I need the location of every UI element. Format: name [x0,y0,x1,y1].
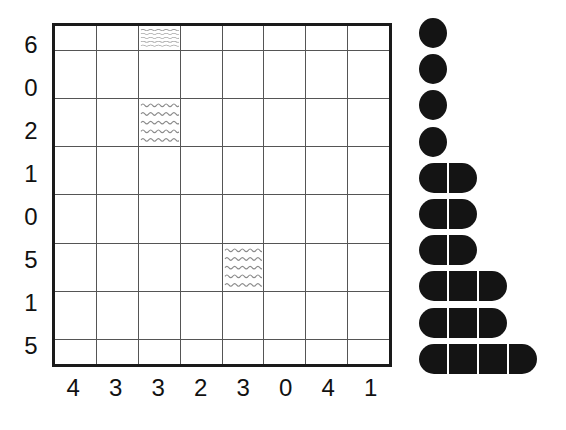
grid-cell[interactable] [306,26,348,50]
column-label-axis: 43323041 [52,371,392,405]
grid-cell[interactable] [55,98,97,146]
grid-cell[interactable] [180,195,222,243]
grid-cell[interactable] [306,195,348,243]
grid-cell[interactable] [347,292,389,340]
column-label-2: 3 [137,371,180,405]
segment-row-1 [419,54,449,84]
wave-pattern-icon [224,246,263,289]
grid-cell[interactable] [347,147,389,195]
grid-cell[interactable] [306,292,348,340]
grid-row [55,243,389,291]
grid-cell[interactable] [55,50,97,98]
grid-row [55,98,389,146]
column-label-4: 3 [222,371,265,405]
grid-cell[interactable] [139,195,181,243]
grid-cell[interactable] [347,26,389,50]
grid-cell[interactable] [264,292,306,340]
grid-cell[interactable] [55,147,97,195]
grid-cell[interactable] [97,340,139,364]
segment-circle [419,90,447,120]
grid-cell[interactable] [55,243,97,291]
grid-cell[interactable] [97,26,139,50]
grid-row [55,195,389,243]
grid-cell[interactable] [222,98,264,146]
grid-cell[interactable] [264,340,306,364]
grid-cell-marked[interactable] [222,243,264,291]
grid-cell[interactable] [97,98,139,146]
column-label-5: 0 [265,371,308,405]
grid-cell[interactable] [306,50,348,98]
row-label-1: 0 [14,66,48,109]
grid-panel [52,23,392,367]
grid-cell[interactable] [139,50,181,98]
grid-cell[interactable] [306,98,348,146]
segment-block [479,271,507,301]
grid-row [55,26,389,50]
grid-cell[interactable] [55,26,97,50]
grid-cell[interactable] [180,26,222,50]
grid-cell[interactable] [180,243,222,291]
grid-cell[interactable] [347,98,389,146]
grid-cell[interactable] [180,50,222,98]
grid-cell[interactable] [55,292,97,340]
grid-cell[interactable] [139,243,181,291]
grid-cell[interactable] [222,50,264,98]
row-label-0: 6 [14,23,48,66]
grid-cell[interactable] [55,195,97,243]
segment-block [419,344,447,374]
row-label-5: 5 [14,238,48,281]
column-label-3: 2 [180,371,223,405]
grid-cell[interactable] [264,98,306,146]
grid-cell[interactable] [222,26,264,50]
segment-circle [419,18,447,48]
segment-block [419,163,447,193]
grid-cell[interactable] [306,340,348,364]
segment-chart [419,18,566,388]
grid-cell[interactable] [222,292,264,340]
grid-cell[interactable] [264,26,306,50]
grid-cell[interactable] [97,292,139,340]
grid-cell[interactable] [97,243,139,291]
grid-cell[interactable] [222,340,264,364]
grid-row [55,292,389,340]
grid-row [55,340,389,364]
grid-cell[interactable] [97,195,139,243]
grid-cell[interactable] [222,195,264,243]
grid-cell[interactable] [306,147,348,195]
grid-cell[interactable] [180,147,222,195]
grid-cell[interactable] [180,340,222,364]
row-label-2: 2 [14,109,48,152]
grid-cell[interactable] [139,147,181,195]
grid-cell-marked[interactable] [139,26,181,50]
segment-block [449,271,477,301]
grid-cell[interactable] [306,243,348,291]
grid-cell[interactable] [97,50,139,98]
segment-block [419,235,447,265]
grid-cell[interactable] [180,98,222,146]
grid-cell[interactable] [139,292,181,340]
grid-cell[interactable] [97,147,139,195]
wave-pattern-icon [140,101,179,144]
segment-block [449,163,477,193]
grid-cell[interactable] [264,243,306,291]
segment-block [449,235,477,265]
grid-cell[interactable] [347,340,389,364]
segment-block [479,308,507,338]
grid-cell[interactable] [264,50,306,98]
column-label-7: 1 [350,371,393,405]
grid-cell-marked[interactable] [139,98,181,146]
row-label-3: 1 [14,152,48,195]
grid-cell[interactable] [55,340,97,364]
grid-row [55,50,389,98]
segment-block [419,199,447,229]
column-label-0: 4 [52,371,95,405]
grid-cell[interactable] [222,147,264,195]
grid-cell[interactable] [264,195,306,243]
grid-cell[interactable] [347,243,389,291]
grid-cell[interactable] [139,340,181,364]
grid-cell[interactable] [347,50,389,98]
grid-cell[interactable] [264,147,306,195]
column-label-6: 4 [307,371,350,405]
grid-cell[interactable] [347,195,389,243]
grid-cell[interactable] [180,292,222,340]
